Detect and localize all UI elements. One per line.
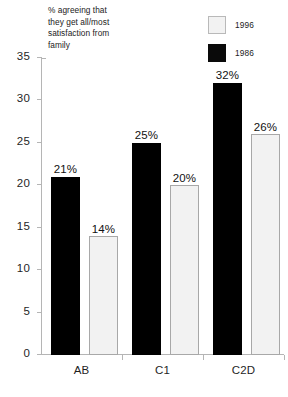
bar-c1-1986: 25%	[132, 143, 161, 355]
x-tick	[284, 355, 285, 360]
bar-value-label: 26%	[254, 121, 277, 133]
bar-group: 21%14%AB	[41, 58, 122, 355]
y-tick-label: 5	[23, 305, 30, 317]
y-tick-label: 20	[17, 177, 30, 189]
bar-value-label: 25%	[135, 129, 158, 141]
x-axis-category-label: AB	[41, 364, 122, 376]
bar-ab-1996: 14%	[89, 236, 118, 355]
x-tick	[203, 355, 204, 360]
bar-value-label: 20%	[173, 172, 196, 184]
y-tick-label: 0	[23, 347, 30, 359]
legend-swatch-1996	[208, 16, 226, 34]
bar-ab-1986: 21%	[51, 177, 80, 355]
bar-c1-1996: 20%	[170, 185, 199, 355]
bar-value-label: 21%	[54, 163, 77, 175]
legend-label-1996: 1996	[235, 20, 254, 30]
x-axis-category-label: C1	[122, 364, 203, 376]
y-tick-label: 10	[17, 262, 30, 274]
legend-item-1996: 1996	[208, 13, 284, 37]
bar-c2d-1986: 32%	[213, 83, 242, 355]
bar-chart: % agreeing that they get all/most satisf…	[0, 0, 288, 397]
y-tick-label: 30	[17, 92, 30, 104]
legend-label-1986: 1986	[235, 48, 254, 58]
y-tick-label: 15	[17, 220, 30, 232]
y-tick-label: 35	[17, 50, 30, 62]
chart-title: % agreeing that they get all/most satisf…	[48, 5, 168, 51]
x-axis-category-label: C2D	[203, 364, 284, 376]
bar-value-label: 32%	[216, 69, 239, 81]
x-tick	[122, 355, 123, 360]
bar-value-label: 14%	[92, 223, 115, 235]
plot-area: 05101520253035 21%14%AB25%20%C132%26%C2D	[41, 58, 284, 355]
bar-group: 32%26%C2D	[203, 58, 284, 355]
bar-c2d-1996: 26%	[251, 134, 280, 355]
bar-group: 25%20%C1	[122, 58, 203, 355]
y-tick-label: 25	[17, 135, 30, 147]
